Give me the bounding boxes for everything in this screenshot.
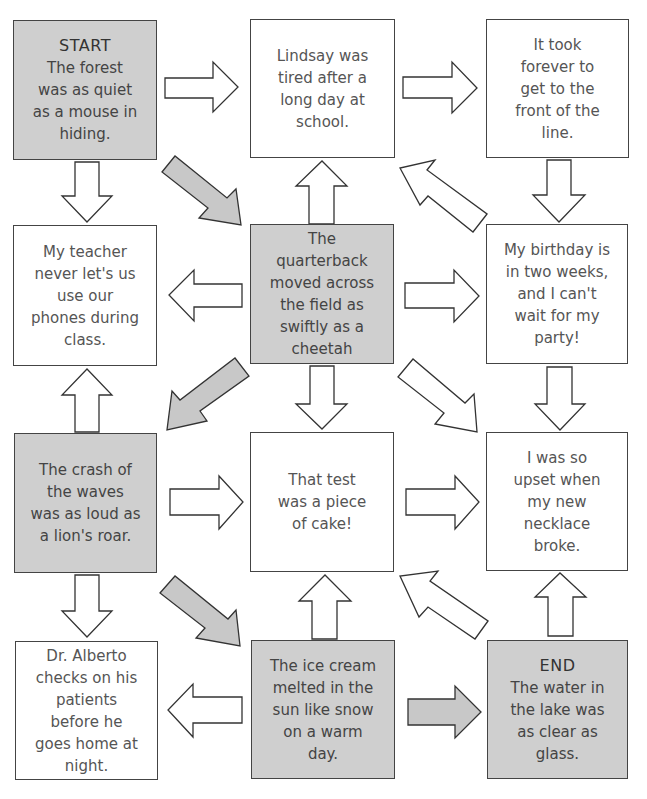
box-text: It took forever to get to the front of t… — [515, 34, 599, 144]
quarterback-box: The quarterback moved across the field a… — [250, 224, 394, 364]
box-text: The crash of the waves was as loud as a … — [31, 459, 141, 547]
arrow-up-left-icon — [400, 160, 487, 232]
arrow-down-left-icon — [167, 358, 249, 430]
arrow-right-icon — [405, 270, 479, 322]
arrow-up-icon — [296, 161, 347, 224]
box-text: Dr. Alberto checks on his patients befor… — [35, 645, 138, 777]
alberto-box: Dr. Alberto checks on his patients befor… — [15, 641, 158, 780]
arrow-up-icon — [299, 575, 351, 639]
arrow-right-icon — [406, 476, 479, 529]
arrow-down-right-icon — [162, 156, 241, 225]
start-box: START The forest was as quiet as a mouse… — [13, 20, 157, 160]
arrow-up-left-icon — [400, 571, 488, 639]
arrow-down-icon — [533, 160, 585, 222]
arrow-left-icon — [169, 270, 242, 321]
arrow-up-icon — [62, 369, 112, 432]
arrow-down-right-icon — [398, 359, 477, 432]
test-box: That test was a piece of cake! — [250, 432, 394, 572]
start-label: START — [59, 35, 111, 57]
box-text: The quarterback moved across the field a… — [270, 228, 374, 360]
box-text: The ice cream melted in the sun like sno… — [270, 655, 376, 765]
end-box: END The water in the lake was as clear a… — [487, 640, 628, 779]
box-text: Lindsay was tired after a long day at sc… — [277, 45, 368, 133]
box-text: I was so upset when my new necklace brok… — [513, 447, 600, 557]
necklace-box: I was so upset when my new necklace brok… — [486, 432, 628, 571]
arrow-down-right-icon — [160, 576, 240, 646]
box-text: The water in the lake was as clear as gl… — [510, 677, 604, 765]
teacher-box: My teacher never let's us use our phones… — [13, 225, 157, 366]
birthday-box: My birthday is in two weeks, and I can't… — [486, 224, 628, 364]
arrow-right-icon — [170, 476, 243, 529]
crash-box: The crash of the waves was as loud as a … — [14, 433, 157, 573]
arrow-down-icon — [296, 366, 347, 429]
box-text: The forest was as quiet as a mouse in hi… — [33, 57, 138, 145]
arrow-left-icon — [168, 684, 242, 737]
arrow-right-icon — [408, 686, 481, 738]
arrow-down-icon — [62, 575, 112, 637]
arrow-down-icon — [535, 367, 585, 430]
box-text: That test was a piece of cake! — [278, 469, 366, 535]
arrow-right-icon — [165, 62, 238, 112]
arrow-right-icon — [403, 62, 477, 113]
arrow-down-icon — [62, 162, 112, 222]
line-box: It took forever to get to the front of t… — [486, 19, 629, 158]
icecream-box: The ice cream melted in the sun like sno… — [251, 640, 395, 779]
end-label: END — [540, 655, 576, 677]
box-text: My birthday is in two weeks, and I can't… — [504, 239, 610, 349]
box-text: My teacher never let's us use our phones… — [31, 241, 139, 351]
arrow-up-icon — [535, 573, 586, 636]
lindsay-box: Lindsay was tired after a long day at sc… — [250, 19, 395, 158]
